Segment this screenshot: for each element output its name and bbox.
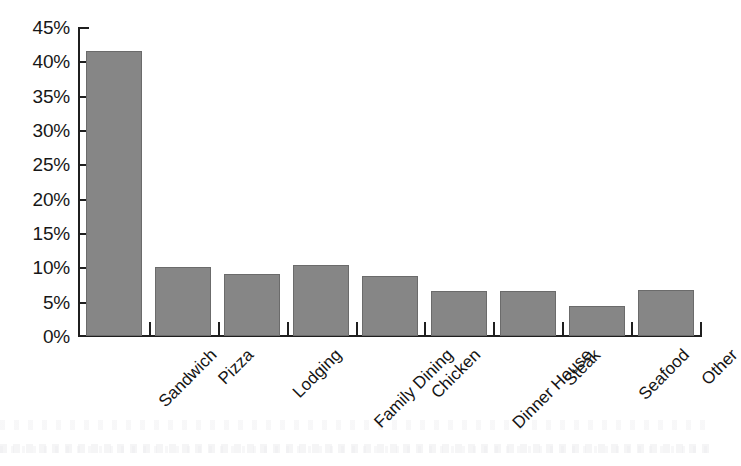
y-axis-line [78,27,80,337]
scan-artifact [0,432,711,466]
y-axis-tick [78,27,89,29]
x-axis-tick [562,322,564,336]
y-axis-tick-label: 25% [8,155,70,174]
x-axis-tick [493,322,495,336]
bar-family-dining [293,265,349,336]
bar-steak [500,291,556,336]
y-axis-tick-label: 30% [8,121,70,140]
y-axis-tick-label: 5% [8,293,70,312]
y-axis-labels: 45% 40% 35% 30% 25% 20% 15% 10% 5% 0% [0,0,70,466]
x-axis-tick [424,322,426,336]
x-axis-tick [149,322,151,336]
bar-lodging [224,274,280,336]
bar-pizza [155,267,211,336]
bar-other [638,290,694,336]
bar-dinner-house [431,291,487,336]
x-axis-tick [287,322,289,336]
x-axis-label-lodging: Lodging [290,346,345,401]
bar-sandwich [86,51,142,336]
y-axis-tick-label: 10% [8,258,70,277]
x-axis-tick [631,322,633,336]
x-axis-label-steak: Steak [561,346,604,389]
y-axis-tick-label: 20% [8,190,70,209]
y-axis-tick-label: 40% [8,52,70,71]
x-axis-tick [218,322,220,336]
x-axis-label-pizza: Pizza [216,346,257,387]
y-axis-tick-label: 45% [8,18,70,37]
y-axis-tick-label: 15% [8,224,70,243]
bar-chicken [362,276,418,336]
x-axis-label-seafood: Seafood [635,346,692,403]
bar-seafood [569,306,625,336]
y-axis-tick-label: 0% [8,327,70,346]
x-axis-tick [356,322,358,336]
x-axis-label-other: Other [698,346,740,388]
x-axis-tick [700,322,702,336]
y-axis-tick-label: 35% [8,87,70,106]
x-axis-label-sandwich: Sandwich [156,346,220,410]
scan-artifact-upper [0,420,711,430]
